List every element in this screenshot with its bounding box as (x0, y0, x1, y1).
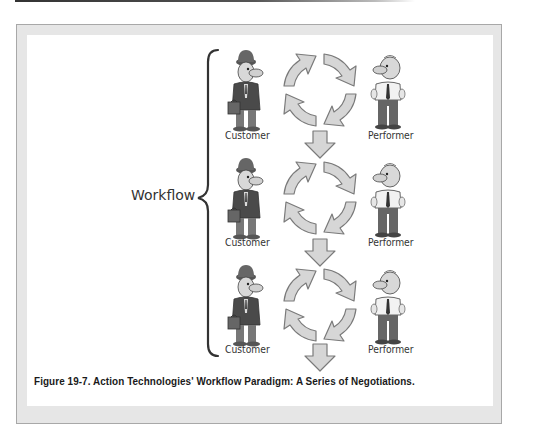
customer-label: Customer (225, 344, 270, 355)
performer-label: Performer (368, 237, 414, 248)
customer-label: Customer (225, 237, 270, 248)
performer-figure-icon (371, 164, 405, 238)
workflow-label: Workflow (131, 187, 195, 203)
performer-figure-icon (371, 271, 405, 345)
performer-label: Performer (368, 344, 414, 355)
customer-figure-icon (228, 265, 263, 347)
performer-label: Performer (368, 130, 414, 141)
figure-caption: Figure 19-7. Action Technologies' Workfl… (34, 375, 415, 387)
customer-figure-icon (228, 50, 263, 132)
down-arrow-icon (305, 239, 335, 266)
down-arrow-icon (305, 131, 335, 158)
negotiation-cycle-icon (284, 162, 356, 234)
customer-label: Customer (225, 130, 270, 141)
workflow-brace (198, 50, 218, 356)
down-arrow-icon (305, 344, 335, 371)
customer-figure-icon (228, 158, 263, 240)
negotiation-cycle-icon (284, 269, 356, 341)
negotiation-cycle-icon (284, 54, 356, 126)
performer-figure-icon (371, 56, 405, 130)
